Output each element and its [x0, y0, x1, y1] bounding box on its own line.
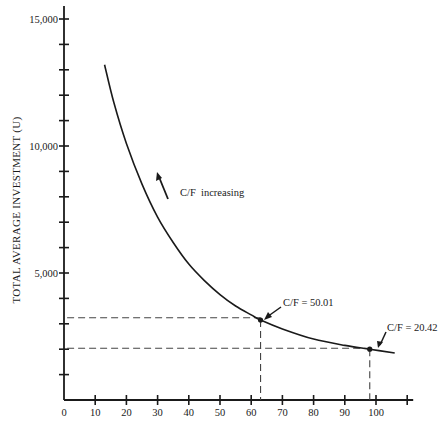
arrowhead-icon [156, 172, 162, 181]
data-point-marker [367, 347, 372, 352]
x-tick-label: 30 [152, 407, 163, 418]
arrow-up-icon [159, 177, 168, 199]
point1-label: C/F = 50.01 [283, 297, 334, 308]
annotation-text: C/F increasing [180, 187, 245, 198]
point2-label: C/F = 20.42 [387, 322, 438, 333]
y-axis-ticks: 5,00010,00015,000 [29, 14, 69, 375]
x-tick-label: 10 [90, 407, 101, 418]
axes [64, 6, 413, 400]
x-tick-label: 50 [215, 407, 226, 418]
annotation-cf-increasing: C/F increasing [156, 172, 245, 199]
arrowhead-icon [264, 312, 272, 320]
x-tick-label: 20 [121, 407, 132, 418]
investment-curve [105, 65, 395, 353]
investment-chart: 5,00010,00015,000 0102030405060708090100… [0, 0, 447, 433]
reference-dashed-lines [67, 318, 370, 400]
x-tick-label: 80 [308, 407, 319, 418]
x-tick-label: 90 [340, 407, 351, 418]
x-tick-label: 0 [61, 407, 66, 418]
x-tick-label: 100 [368, 407, 384, 418]
data-point-marker [258, 317, 263, 322]
y-tick-label: 10,000 [29, 141, 58, 152]
x-tick-label: 40 [184, 407, 195, 418]
x-tick-label: 70 [277, 407, 288, 418]
annotation-point2: C/F = 20.42 [377, 322, 438, 348]
x-axis-ticks: 0102030405060708090100 [61, 395, 407, 418]
y-axis-title: TOTAL AVERAGE INVESTMENT (U) [10, 116, 23, 303]
x-tick-label: 60 [246, 407, 257, 418]
annotation-point1: C/F = 50.01 [264, 297, 334, 320]
arrowhead-icon [377, 341, 383, 348]
y-tick-label: 5,000 [34, 268, 58, 279]
y-tick-label: 15,000 [29, 14, 58, 25]
